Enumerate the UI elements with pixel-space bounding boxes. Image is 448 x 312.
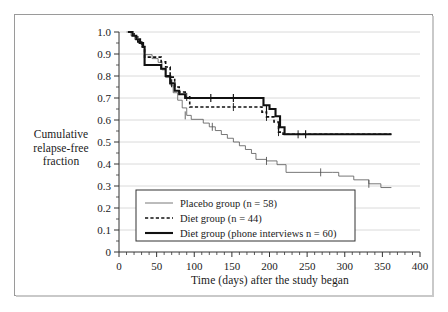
series-line-1 (130, 32, 392, 134)
legend-label-2: Diet group (phone interviews n = 60) (180, 228, 337, 240)
y-tick-label: 0.5 (97, 136, 111, 148)
legend-label-1: Diet group (n = 44) (180, 213, 262, 225)
y-tick-label: 0 (106, 246, 112, 258)
figure-root: Cumulative relapse-free fraction Time (d… (0, 0, 448, 312)
y-tick-label: 0.9 (97, 48, 111, 60)
kaplan-meier-plot: 00.10.20.30.40.50.60.70.80.91.0050100150… (0, 0, 448, 312)
x-tick-label: 350 (374, 260, 391, 272)
x-tick-label: 0 (116, 260, 122, 272)
x-tick-label: 150 (224, 260, 241, 272)
x-tick-label: 300 (337, 260, 354, 272)
y-tick-label: 0.6 (97, 114, 111, 126)
series-line-2 (128, 32, 391, 134)
legend-label-0: Placebo group (n = 58) (180, 198, 277, 210)
y-tick-label: 0.2 (97, 202, 111, 214)
x-tick-label: 50 (151, 260, 163, 272)
x-tick-label: 100 (186, 260, 203, 272)
y-tick-label: 0.8 (97, 70, 111, 82)
x-tick-label: 200 (261, 260, 278, 272)
caption-sliver (22, 305, 426, 310)
x-tick-label: 400 (412, 260, 429, 272)
y-tick-label: 0.3 (97, 180, 111, 192)
y-tick-label: 0.7 (97, 92, 111, 104)
y-tick-label: 0.1 (97, 224, 111, 236)
x-tick-label: 250 (299, 260, 316, 272)
y-tick-label: 0.4 (97, 158, 111, 170)
y-tick-label: 1.0 (97, 26, 111, 38)
